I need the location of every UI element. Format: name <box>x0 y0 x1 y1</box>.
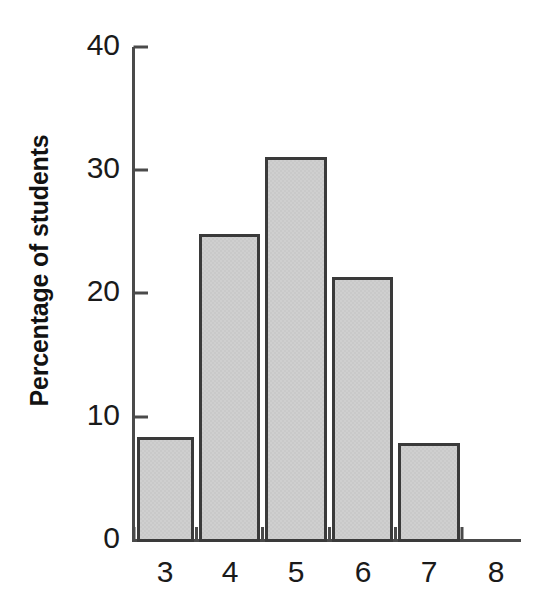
bar <box>138 438 193 540</box>
histogram-figure: Percentage of students <box>0 0 558 606</box>
x-tick-label-4: 4 <box>200 557 260 587</box>
bar <box>201 236 259 541</box>
x-tick-label-8: 8 <box>466 557 526 587</box>
x-tick-label-7: 7 <box>399 557 459 587</box>
bar <box>267 158 326 540</box>
bar <box>334 279 392 541</box>
y-tick-label-10: 10 <box>58 400 120 430</box>
bar-series <box>138 158 458 540</box>
y-axis-ticks <box>134 47 149 417</box>
y-tick-label-0: 0 <box>58 523 120 553</box>
x-tick-label-3: 3 <box>135 557 195 587</box>
y-tick-label-40: 40 <box>58 30 120 60</box>
y-tick-label-20: 20 <box>58 276 120 306</box>
x-tick-label-5: 5 <box>266 557 326 587</box>
x-tick-label-6: 6 <box>333 557 393 587</box>
bar <box>400 444 459 540</box>
y-tick-label-30: 30 <box>58 153 120 183</box>
